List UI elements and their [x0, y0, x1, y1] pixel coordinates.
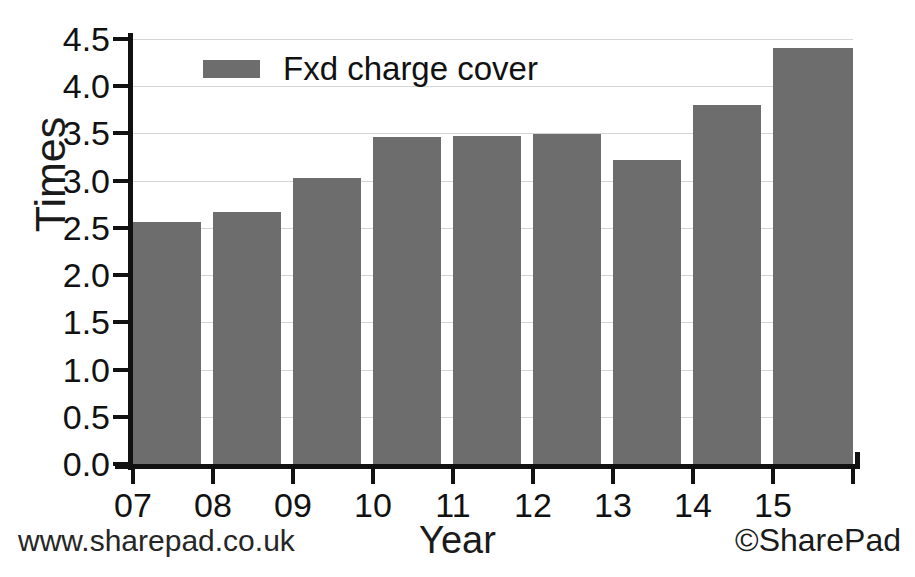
x-axis-tick-mark: [531, 466, 535, 484]
legend-swatch-fxd-charge-cover: [203, 60, 260, 78]
x-axis-tick-label: 08: [194, 488, 232, 522]
chart-legend: Fxd charge cover: [203, 52, 538, 85]
x-axis-tick-mark: [451, 466, 455, 484]
x-axis-tick-mark: [851, 466, 855, 484]
copyright-notice: ©SharePad: [735, 522, 901, 559]
x-axis-tick-mark: [691, 466, 695, 484]
x-axis-tick-label: 14: [674, 488, 712, 522]
x-axis-tick-label: 12: [514, 488, 552, 522]
x-axis-tick-mark: [611, 466, 615, 484]
x-axis-tick-mark: [371, 466, 375, 484]
x-axis-tick-mark: [131, 466, 135, 484]
x-axis-tick-label: 10: [354, 488, 392, 522]
x-axis-tick-label: 15: [754, 488, 792, 522]
x-axis-tick-mark: [771, 466, 775, 484]
chart-figure: Times 0.00.51.01.52.02.53.03.54.04.5 070…: [0, 0, 915, 577]
x-axis-tick-label: 13: [594, 488, 632, 522]
x-axis-tick-label: 09: [274, 488, 312, 522]
x-axis-tick-mark: [291, 466, 295, 484]
legend-label-fxd-charge-cover: Fxd charge cover: [283, 52, 538, 85]
x-axis-tick-label: 07: [114, 488, 152, 522]
x-axis-tick-mark: [211, 466, 215, 484]
x-axis-tick-label: 11: [435, 488, 470, 522]
